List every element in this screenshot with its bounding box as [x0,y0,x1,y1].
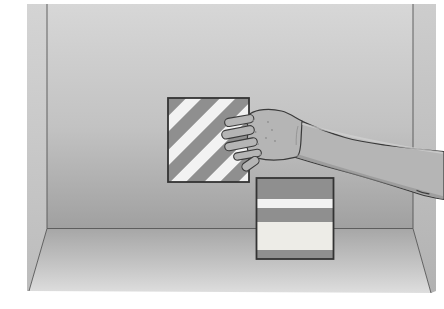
wall-card-face [168,98,249,182]
floor-card-stripe [257,199,334,208]
scene-svg [0,0,444,309]
floor-card-stripe [257,178,334,199]
hand-dot [274,140,276,142]
floor-card [257,178,334,259]
floor-card-stripe [257,250,334,259]
hand-dot [267,121,269,123]
hand-dot [265,137,267,139]
illustration [0,0,444,309]
knuckle-dot [252,120,254,122]
hand-dot [271,129,273,131]
floor-card-stripe [257,222,334,250]
knuckle-dot [260,154,262,156]
floor [29,229,431,294]
wall-card [168,98,249,182]
knuckle-dot [255,131,257,133]
floor-card-stripe [257,208,334,222]
knuckle-dot [257,143,259,145]
